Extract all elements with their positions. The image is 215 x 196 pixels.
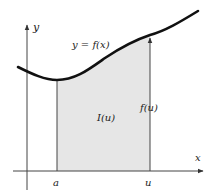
upper-bound-label: u [145,177,151,188]
shaded-area-region [57,35,150,171]
height-label: f(u) [139,102,158,113]
diagram-canvas: y x y = f(x) I(u) f(u) a u [0,0,215,196]
curve-label: y = f(x) [71,39,110,50]
lower-bound-label: a [53,177,59,188]
y-axis-label: y [32,21,40,34]
x-axis-label: x [195,152,201,163]
area-label: I(u) [96,112,115,123]
